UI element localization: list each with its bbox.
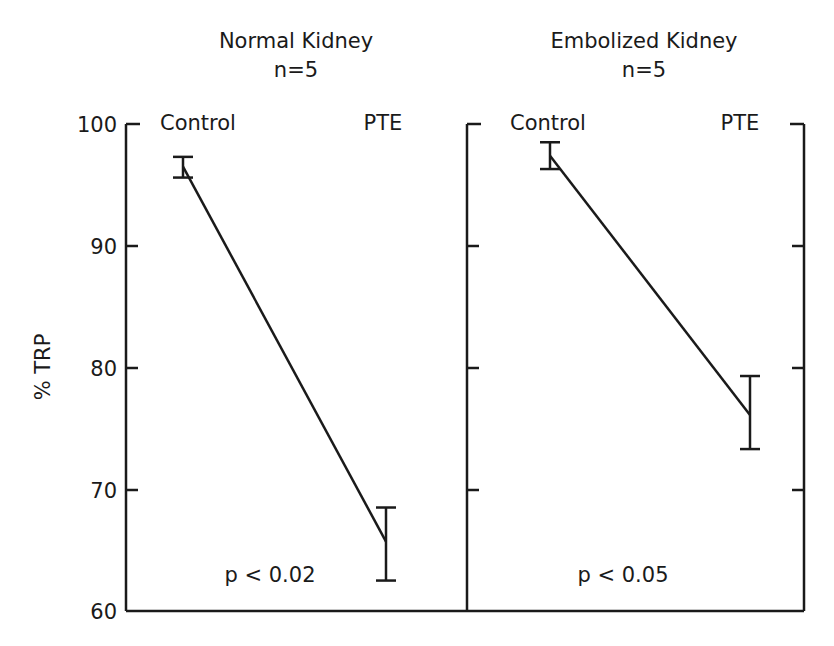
right-p-value: p < 0.05	[577, 563, 668, 587]
y-tick-label-60: 60	[90, 600, 117, 624]
y-tick-labels: 100 90 80 70 60	[77, 113, 117, 624]
y-ticks	[126, 124, 804, 490]
axes-frame	[126, 124, 804, 611]
y-tick-label-80: 80	[90, 357, 117, 381]
y-axis-label: % TRP	[31, 334, 55, 401]
left-panel-title: Normal Kidney	[219, 29, 373, 53]
data-line	[183, 167, 386, 542]
data-line	[550, 156, 750, 415]
left-panel-n-label: n=5	[274, 58, 318, 82]
left-p-value: p < 0.02	[224, 563, 315, 587]
right-panel-n-label: n=5	[622, 58, 666, 82]
figure: Normal Kidney n=5 Embolized Kidney n=5 C…	[0, 0, 834, 646]
right-panel-title: Embolized Kidney	[550, 29, 737, 53]
y-tick-label-100: 100	[77, 113, 117, 137]
left-pte-label: PTE	[364, 111, 403, 135]
right-control-label: Control	[510, 111, 586, 135]
y-tick-label-90: 90	[90, 235, 117, 259]
y-tick-label-70: 70	[90, 479, 117, 503]
right-pte-label: PTE	[721, 111, 760, 135]
left-control-label: Control	[160, 111, 236, 135]
